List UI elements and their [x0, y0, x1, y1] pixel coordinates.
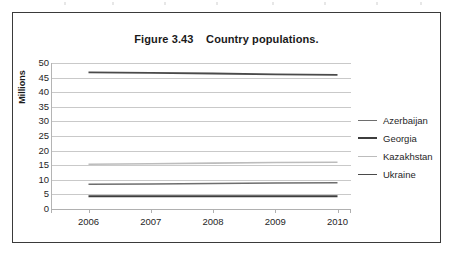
scan-artifact	[40, 2, 440, 7]
legend-swatch-icon	[358, 174, 377, 175]
legend-swatch-icon	[358, 156, 377, 157]
y-axis-tick-label: 35	[25, 102, 49, 112]
legend-swatch-icon	[358, 120, 377, 121]
y-axis-tick-label: 30	[25, 116, 49, 126]
y-axis-tick-label: 25	[25, 131, 49, 141]
plot-area: Millions 05101520253035404550 2006200720…	[13, 13, 442, 244]
legend: AzerbaijanGeorgiaKazakhstanUkraine	[358, 111, 442, 183]
figure-screenshot: Figure 3.43 Country populations. Million…	[0, 0, 454, 262]
y-axis-tick-label: 50	[25, 58, 49, 68]
y-axis-tick-label: 45	[25, 73, 49, 83]
y-axis-tick-label: 20	[25, 146, 49, 156]
y-axis-tick-label: 0	[25, 204, 49, 214]
legend-label: Azerbaijan	[383, 115, 428, 126]
data-series-group	[51, 13, 351, 244]
legend-item-kazakhstan: Kazakhstan	[358, 147, 442, 165]
series-line-azerbaijan	[89, 183, 338, 184]
legend-item-azerbaijan: Azerbaijan	[358, 111, 442, 129]
legend-item-georgia: Georgia	[358, 129, 442, 147]
figure-frame: Figure 3.43 Country populations. Million…	[12, 12, 441, 243]
series-line-kazakhstan	[89, 162, 338, 164]
y-axis-tick-label: 10	[25, 175, 49, 185]
y-axis-tick-label: 5	[25, 189, 49, 199]
legend-swatch-icon	[358, 137, 377, 139]
y-axis-tick-label: 15	[25, 160, 49, 170]
legend-item-ukraine: Ukraine	[358, 165, 442, 183]
y-axis-tick-label: 40	[25, 87, 49, 97]
y-axis-tick-labels: 05101520253035404550	[23, 13, 49, 244]
legend-label: Kazakhstan	[383, 151, 433, 162]
series-line-ukraine	[89, 72, 338, 75]
legend-label: Ukraine	[383, 169, 416, 180]
legend-label: Georgia	[383, 133, 417, 144]
